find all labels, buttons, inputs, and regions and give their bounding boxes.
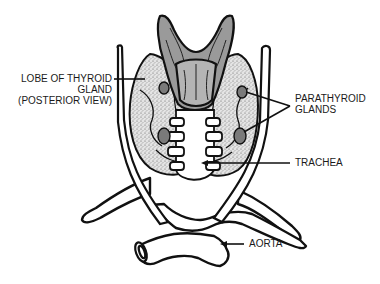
label-aorta-text: AORTA — [249, 238, 283, 249]
label-parathyroid-line1: PARATHYROID — [295, 93, 366, 104]
label-thyroid-lobe: LOBE OF THYROID GLAND (POSTERIOR VIEW) — [8, 73, 112, 106]
label-thyroid-line2: GLAND — [8, 84, 112, 95]
label-trachea: TRACHEA — [295, 157, 343, 168]
label-trachea-text: TRACHEA — [295, 157, 343, 168]
parathyroid-lower-right — [234, 128, 246, 144]
parathyroid-lower-left — [158, 128, 170, 144]
label-thyroid-line1: LOBE OF THYROID — [8, 73, 112, 84]
trachea — [168, 110, 222, 180]
thyroid-diagram — [0, 0, 380, 284]
aorta-vessels — [82, 178, 306, 266]
parathyroid-upper-left — [159, 82, 169, 94]
label-aorta: AORTA — [249, 238, 283, 249]
parathyroid-upper-right — [237, 86, 247, 98]
label-parathyroid: PARATHYROID GLANDS — [295, 93, 366, 115]
label-thyroid-line3: (POSTERIOR VIEW) — [8, 95, 112, 106]
label-parathyroid-line2: GLANDS — [295, 104, 366, 115]
